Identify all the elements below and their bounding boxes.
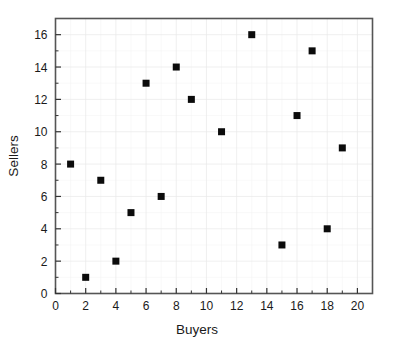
- x-tick-label: 18: [321, 299, 335, 313]
- data-point-marker: [339, 144, 346, 151]
- x-tick-label: 6: [143, 299, 150, 313]
- y-tick-label: 14: [34, 61, 48, 75]
- figure-background: [0, 0, 394, 347]
- x-tick-label: 8: [173, 299, 180, 313]
- data-point-marker: [97, 177, 104, 184]
- data-point-marker: [127, 209, 134, 216]
- y-tick-label: 2: [41, 255, 48, 269]
- data-point-marker: [158, 193, 165, 200]
- data-point-marker: [294, 112, 301, 119]
- data-point-marker: [278, 241, 285, 248]
- data-point-marker: [67, 161, 74, 168]
- data-point-marker: [173, 64, 180, 71]
- y-tick-label: 16: [34, 28, 48, 42]
- data-point-marker: [112, 258, 119, 265]
- y-tick-label: 10: [34, 125, 48, 139]
- y-tick-label: 4: [41, 222, 48, 236]
- data-point-marker: [324, 225, 331, 232]
- x-tick-label: 16: [290, 299, 304, 313]
- y-axis-title: Sellers: [6, 135, 21, 177]
- data-point-marker: [188, 96, 195, 103]
- y-tick-label: 8: [41, 158, 48, 172]
- data-point-marker: [82, 274, 89, 281]
- scatter-plot-figure: 02468101214161820 0246810121416 Buyers S…: [0, 0, 394, 347]
- x-tick-label: 10: [200, 299, 214, 313]
- data-point-marker: [218, 128, 225, 135]
- y-tick-label: 0: [41, 287, 48, 301]
- data-point-marker: [143, 80, 150, 87]
- data-point-marker: [248, 31, 255, 38]
- x-tick-label: 4: [113, 299, 120, 313]
- x-axis-title: Buyers: [176, 322, 218, 337]
- plot-canvas: 02468101214161820 0246810121416 Buyers S…: [0, 0, 394, 347]
- x-tick-label: 14: [260, 299, 274, 313]
- x-tick-label: 0: [52, 299, 59, 313]
- data-point-marker: [309, 47, 316, 54]
- x-tick-label: 2: [82, 299, 89, 313]
- x-tick-label: 20: [351, 299, 365, 313]
- y-tick-label: 6: [41, 190, 48, 204]
- x-tick-label: 12: [230, 299, 244, 313]
- y-tick-label: 12: [34, 93, 48, 107]
